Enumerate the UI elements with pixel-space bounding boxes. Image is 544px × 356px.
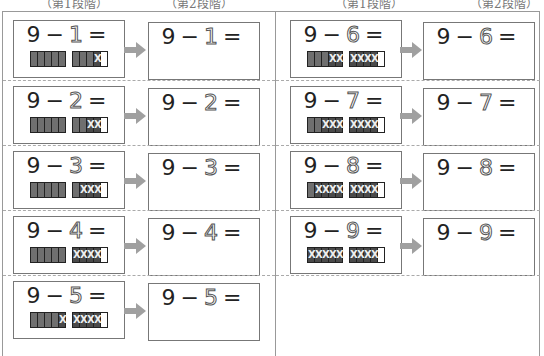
subtrahend: 5: [69, 283, 84, 308]
counter-cell-crossed: [94, 52, 101, 66]
minuend: 9: [304, 88, 319, 113]
counter-cell-crossed: [350, 248, 357, 262]
equation: 9−1=: [14, 23, 124, 47]
equals-sign: =: [498, 220, 517, 245]
counter-cell: [45, 313, 52, 327]
minuend: 9: [27, 283, 42, 308]
subtrahend: 4: [69, 218, 84, 243]
counter-group: [30, 51, 66, 67]
equation: 9−6=: [424, 25, 534, 49]
ten-frame-counters: [14, 117, 124, 133]
counter-cell-crossed: [80, 183, 87, 197]
counter-cell-crossed: [350, 52, 357, 66]
counter-cell-crossed: [94, 183, 101, 197]
problem-card: 9−4=: [13, 216, 125, 274]
counter-cell-empty: [101, 118, 107, 132]
right-arrow-icon: [124, 42, 146, 58]
counter-cell-crossed: [87, 313, 94, 327]
equals-sign: =: [88, 283, 107, 308]
counter-cell: [52, 183, 59, 197]
counter-cell: [73, 118, 80, 132]
answer-card[interactable]: 9−4=: [148, 218, 260, 276]
counter-cell-crossed: [73, 313, 80, 327]
answer-card[interactable]: 9−2=: [148, 88, 260, 146]
right-arrow-icon: [400, 42, 422, 58]
counter-cell: [38, 52, 45, 66]
counter-group: [307, 117, 343, 133]
minus-sign: −: [456, 90, 475, 115]
counter-cell: [59, 52, 65, 66]
counter-cell-empty: [101, 52, 107, 66]
counter-cell: [45, 248, 52, 262]
subtrahend: 9: [346, 218, 361, 243]
counter-cell-crossed: [322, 118, 329, 132]
minus-sign: −: [46, 22, 65, 47]
equals-sign: =: [365, 88, 384, 113]
counter-cell: [52, 313, 59, 327]
header-stage1-right: （第1段階）: [335, 0, 403, 11]
equation: 9−7=: [291, 89, 401, 113]
subtrahend: 4: [204, 220, 219, 245]
minus-sign: −: [181, 285, 200, 310]
right-arrow-icon: [124, 173, 146, 189]
row-separator: [3, 145, 275, 146]
minuend: 9: [162, 220, 177, 245]
counter-cell: [73, 183, 80, 197]
answer-card[interactable]: 9−6=: [423, 22, 535, 80]
counter-cell: [45, 118, 52, 132]
counter-cell-crossed: [371, 118, 378, 132]
answer-card[interactable]: 9−7=: [423, 88, 535, 146]
answer-card[interactable]: 9−5=: [148, 283, 260, 341]
answer-card[interactable]: 9−1=: [148, 22, 260, 80]
counter-cell: [38, 118, 45, 132]
answer-card[interactable]: 9−3=: [148, 153, 260, 211]
counter-group: [30, 182, 66, 198]
counter-cell: [315, 118, 322, 132]
row-separator: [276, 145, 540, 146]
problem-card: 9−9=: [290, 216, 402, 274]
minuend: 9: [162, 90, 177, 115]
equals-sign: =: [223, 155, 242, 180]
counter-cell-crossed: [371, 52, 378, 66]
counter-group: [349, 182, 385, 198]
minus-sign: −: [323, 218, 342, 243]
minus-sign: −: [456, 220, 475, 245]
ten-frame-counters: [14, 247, 124, 263]
counter-cell-crossed: [357, 52, 364, 66]
equation: 9−3=: [149, 156, 259, 180]
minus-sign: −: [456, 155, 475, 180]
counter-cell-crossed: [357, 183, 364, 197]
answer-card[interactable]: 9−9=: [423, 218, 535, 276]
minus-sign: −: [46, 283, 65, 308]
counter-group: [307, 247, 343, 263]
equals-sign: =: [365, 22, 384, 47]
counter-cell: [80, 118, 87, 132]
problem-card: 9−7=: [290, 86, 402, 144]
problem-card: 9−6=: [290, 20, 402, 78]
minus-sign: −: [46, 218, 65, 243]
counter-group: [349, 247, 385, 263]
counter-cell-crossed: [329, 52, 336, 66]
subtrahend: 9: [479, 220, 494, 245]
equals-sign: =: [88, 218, 107, 243]
equation: 9−9=: [424, 221, 534, 245]
column-divider: [275, 11, 276, 356]
counter-cell-empty: [378, 118, 384, 132]
problem-card: 9−5=: [13, 281, 125, 339]
counter-cell-crossed: [94, 313, 101, 327]
subtrahend: 6: [479, 24, 494, 49]
counter-group: [72, 51, 108, 67]
counter-group: [30, 312, 66, 328]
minuend: 9: [27, 88, 42, 113]
counter-cell-crossed: [87, 118, 94, 132]
minuend: 9: [27, 22, 42, 47]
counter-group: [349, 117, 385, 133]
counter-cell-crossed: [329, 183, 336, 197]
counter-group: [307, 182, 343, 198]
counter-cell: [308, 118, 315, 132]
counter-cell-crossed: [73, 248, 80, 262]
minus-sign: −: [181, 24, 200, 49]
equation: 9−4=: [149, 221, 259, 245]
counter-cell-crossed: [87, 248, 94, 262]
answer-card[interactable]: 9−8=: [423, 153, 535, 211]
